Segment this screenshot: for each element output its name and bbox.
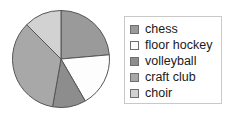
legend-item-floor-hockey[interactable]: floor hockey bbox=[130, 37, 221, 53]
legend-label-volleyball: volleyball bbox=[145, 54, 196, 68]
legend-swatch-floor-hockey bbox=[130, 41, 139, 50]
pie-slice-group bbox=[12, 11, 109, 108]
legend-item-chess[interactable]: chess bbox=[130, 21, 221, 37]
legend-swatch-craft-club bbox=[130, 73, 139, 82]
legend-label-choir: choir bbox=[145, 86, 172, 100]
legend-swatch-chess bbox=[130, 25, 139, 34]
legend-item-choir[interactable]: choir bbox=[130, 85, 221, 101]
pie-chart-plot-area bbox=[11, 9, 111, 109]
pie-chart-figure: chess floor hockey volleyball craft club… bbox=[0, 0, 231, 118]
legend-label-chess: chess bbox=[145, 22, 178, 36]
legend-swatch-volleyball bbox=[130, 57, 139, 66]
chart-legend: chess floor hockey volleyball craft club… bbox=[124, 16, 222, 104]
legend-label-craft-club: craft club bbox=[145, 70, 196, 84]
legend-item-volleyball[interactable]: volleyball bbox=[130, 53, 221, 69]
legend-swatch-choir bbox=[130, 89, 139, 98]
legend-label-floor-hockey: floor hockey bbox=[145, 38, 212, 52]
pie-svg bbox=[11, 9, 111, 109]
pie-slice-chess[interactable] bbox=[61, 11, 109, 60]
legend-item-craft-club[interactable]: craft club bbox=[130, 69, 221, 85]
